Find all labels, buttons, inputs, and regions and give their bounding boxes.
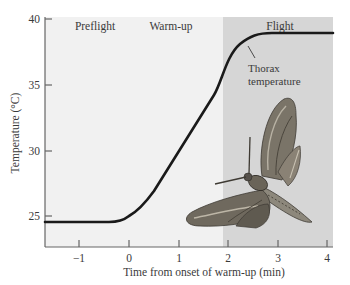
- annotation-thorax: Thorax: [248, 62, 280, 74]
- y-axis-title: Temperature (°C): [9, 92, 22, 173]
- region-label-flight: Flight: [266, 20, 294, 33]
- x-tick-0: 0: [126, 252, 132, 264]
- x-tick-1: 1: [176, 252, 182, 264]
- y-tick-30: 30: [29, 145, 41, 157]
- x-axis-title: Time from onset of warm-up (min): [123, 266, 285, 279]
- x-tick-minus1: −1: [73, 252, 85, 264]
- x-tick-4: 4: [324, 252, 330, 264]
- y-tick-40: 40: [29, 13, 41, 25]
- region-label-preflight: Preflight: [75, 20, 116, 33]
- annotation-temperature: temperature: [248, 75, 301, 87]
- x-tick-3: 3: [275, 252, 281, 264]
- thorax-temperature-chart: 40 35 30 25 −1 0 1 2 3 4 Time from onset…: [0, 0, 350, 285]
- region-label-warmup: Warm-up: [149, 20, 192, 33]
- y-tick-35: 35: [29, 79, 41, 91]
- x-tick-2: 2: [225, 252, 231, 264]
- y-tick-25: 25: [29, 210, 41, 222]
